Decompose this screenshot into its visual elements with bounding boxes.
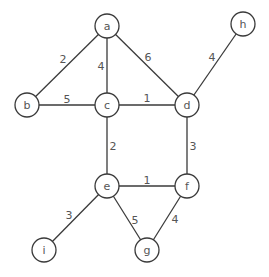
edge-weight-a-d: 6 <box>145 51 152 64</box>
node-label: d <box>184 99 191 112</box>
node-i: i <box>32 238 56 262</box>
weighted-graph-diagram: 246514231354 abcdhefgi <box>0 0 269 277</box>
node-label: i <box>42 244 45 257</box>
node-a: a <box>95 14 119 38</box>
node-label: a <box>104 20 111 33</box>
node-g: g <box>135 238 159 262</box>
edge-weight-e-g: 5 <box>132 214 139 227</box>
node-label: b <box>24 99 31 112</box>
edge-weight-b-c: 5 <box>64 93 71 106</box>
node-label: h <box>240 18 247 31</box>
node-f: f <box>175 174 199 198</box>
edge-weights: 246514231354 <box>60 51 216 227</box>
edge-d-h <box>187 24 243 105</box>
node-c: c <box>95 93 119 117</box>
node-e: e <box>95 174 119 198</box>
edge-weight-e-f: 1 <box>144 174 151 187</box>
node-label: e <box>104 180 111 193</box>
edge-weight-e-i: 3 <box>66 209 73 222</box>
node-b: b <box>15 93 39 117</box>
edge-weight-c-e: 2 <box>110 140 117 153</box>
node-label: c <box>104 99 110 112</box>
edge-e-i <box>44 186 107 250</box>
edge-weight-c-d: 1 <box>144 92 151 105</box>
node-h: h <box>231 12 255 36</box>
edge-weight-a-b: 2 <box>60 53 67 66</box>
node-label: g <box>144 244 151 257</box>
edge-weight-a-c: 4 <box>98 60 105 73</box>
edge-weight-d-h: 4 <box>209 51 216 64</box>
edge-weight-d-f: 3 <box>190 140 197 153</box>
edge-weight-f-g: 4 <box>172 213 179 226</box>
node-d: d <box>175 93 199 117</box>
